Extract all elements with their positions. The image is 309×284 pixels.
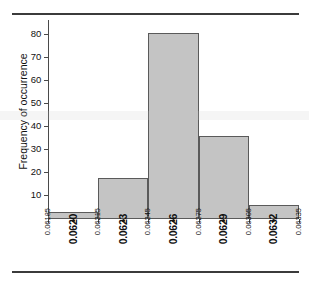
x-tick-label-minor: 0.06335 [295,208,303,268]
x-tick-label-minor: 0.06185 [44,208,52,268]
y-tick-label: 40 [17,121,41,131]
y-tick-label: 50 [17,98,41,108]
y-tick-label: 30 [17,144,41,154]
figure-top-rule [12,13,299,15]
x-tick-label-minor: 0.06275 [195,208,203,268]
x-tick-label-minor: 0.06215 [94,208,102,268]
histogram-figure: Frequency of occurrence 1020304050607080… [0,0,309,284]
x-tick-label-major: 0.0629 [218,214,229,274]
bar-series [48,20,299,219]
x-tick-label-major: 0.0632 [268,214,279,274]
y-tick-label: 10 [17,190,41,200]
x-tick-label-major: 0.0623 [118,214,129,274]
x-tick-label-major: 0.0620 [68,214,79,274]
histogram-bar [98,178,148,219]
figure-bottom-rule [12,271,299,273]
x-tick-label-minor: 0.06305 [245,208,253,268]
histogram-bar [199,136,249,219]
x-tick-label-major: 0.0626 [168,214,179,274]
y-tick-label: 60 [17,75,41,85]
histogram-bar [148,33,198,219]
y-tick-label: 70 [17,52,41,62]
y-tick-label: 20 [17,167,41,177]
x-tick-label-minor: 0.06245 [144,208,152,268]
y-tick-label: 80 [17,29,41,39]
